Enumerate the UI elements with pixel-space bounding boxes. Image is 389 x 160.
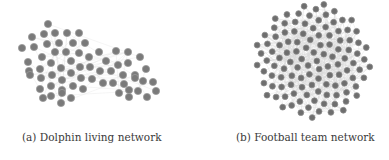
graph-node: [356, 40, 362, 46]
graph-node: [335, 61, 341, 67]
graph-node: [357, 67, 363, 73]
graph-node: [304, 92, 310, 98]
graph-node: [86, 63, 93, 70]
graph-node: [332, 83, 338, 89]
graph-node: [298, 75, 304, 81]
graph-node: [47, 82, 54, 89]
graph-node: [350, 75, 356, 81]
graph-node: [102, 57, 109, 64]
graph-node: [96, 67, 103, 74]
graph-node: [152, 87, 159, 94]
graph-node: [136, 53, 143, 60]
graph-node: [342, 80, 348, 86]
graph-node: [327, 42, 333, 48]
graph-node: [312, 98, 318, 104]
graph-node: [291, 29, 297, 35]
caption-dolphin-network: (a) Dolphin living network: [22, 131, 162, 143]
graph-node: [327, 32, 333, 38]
graph-node: [40, 30, 47, 37]
graph-node: [261, 80, 267, 86]
graph-node: [125, 93, 132, 100]
graph-node: [115, 89, 122, 96]
graph-node: [350, 60, 356, 66]
graph-node: [67, 94, 74, 101]
graph-node: [277, 42, 283, 48]
graph-node: [270, 83, 276, 89]
graph-node: [39, 94, 46, 101]
graph-node: [114, 61, 121, 68]
graph-node: [69, 39, 76, 46]
graph-node: [112, 47, 119, 54]
graph-node: [295, 64, 301, 70]
graph-node: [57, 99, 64, 106]
graph-node: [340, 17, 346, 23]
graph-node: [47, 92, 54, 99]
caption-football-network: (b) Football team network: [236, 131, 375, 143]
graph-node: [323, 24, 329, 30]
graph-node: [262, 32, 268, 38]
graph-node: [264, 92, 270, 98]
graph-node: [149, 78, 156, 85]
graph-node: [363, 45, 369, 51]
graph-node: [143, 93, 150, 100]
graph-node: [349, 17, 355, 23]
graph-node: [328, 109, 334, 115]
graph-node: [330, 54, 336, 60]
graph-node: [282, 20, 288, 26]
graph-node: [124, 48, 131, 55]
graph-node: [261, 68, 267, 74]
graph-node: [119, 71, 126, 78]
graph-node: [291, 91, 297, 97]
graph-node: [325, 64, 331, 70]
graph-node: [51, 29, 58, 36]
graph-node: [340, 107, 346, 113]
graph-node: [139, 77, 146, 84]
graph-node: [47, 59, 54, 66]
graph-node: [307, 37, 313, 43]
graph-node: [347, 37, 353, 43]
graph-node: [51, 48, 58, 55]
graph-node: [109, 79, 116, 86]
graph-node: [75, 49, 82, 56]
graph-node: [284, 12, 290, 18]
graph-node: [307, 13, 313, 19]
graph-node: [307, 71, 313, 77]
figure-dolphin-network: [0, 0, 195, 125]
graph-node: [336, 72, 342, 78]
graph-node: [67, 57, 74, 64]
graph-node: [134, 87, 141, 94]
graph-node: [344, 67, 350, 73]
graph-node: [361, 56, 367, 62]
graph-node: [85, 53, 92, 60]
graph-node: [334, 92, 340, 98]
graph-node: [323, 12, 329, 18]
graph-node: [331, 19, 337, 25]
graph-node: [331, 8, 337, 14]
graph-node: [287, 59, 293, 65]
graph-node: [55, 39, 62, 46]
graph-node: [335, 46, 341, 52]
graph-node: [288, 82, 294, 88]
graph-node: [299, 56, 305, 62]
graph-node: [346, 47, 352, 53]
graph-node: [296, 11, 302, 17]
graph-node: [306, 105, 312, 111]
graph-node: [289, 103, 295, 109]
graph-node: [142, 65, 149, 72]
graph-node: [303, 45, 309, 51]
graph-node: [131, 74, 138, 81]
graph-node: [75, 29, 82, 36]
graph-node: [316, 17, 322, 23]
graph-node: [99, 79, 106, 86]
graph-node: [284, 50, 290, 56]
graph-node: [76, 63, 83, 70]
graph-node: [264, 58, 270, 64]
graph-node: [278, 74, 284, 80]
graph-node: [281, 66, 287, 72]
graph-node: [30, 43, 37, 50]
graph-node: [269, 73, 275, 79]
graph-node: [354, 28, 360, 34]
graph-node: [18, 44, 25, 51]
graph-node: [24, 58, 31, 65]
graph-node: [277, 55, 283, 61]
